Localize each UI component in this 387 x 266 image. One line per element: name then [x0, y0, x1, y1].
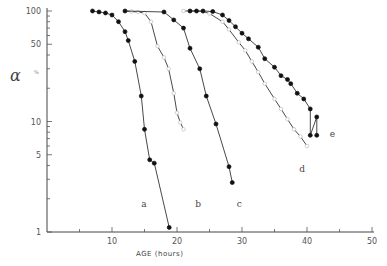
data-point — [247, 37, 251, 41]
y-tick-label: 50 — [31, 40, 41, 49]
data-point — [308, 133, 312, 137]
data-point — [182, 9, 186, 13]
data-point — [308, 107, 312, 111]
curve-label-c: c — [237, 199, 242, 209]
y-tick-label: 1 — [36, 228, 41, 237]
data-point — [201, 9, 205, 13]
curve-b — [125, 11, 184, 129]
data-point — [91, 9, 95, 13]
series-d: d — [182, 9, 309, 174]
data-point — [263, 57, 267, 61]
data-point — [139, 94, 143, 98]
data-point — [256, 45, 260, 49]
data-point — [273, 97, 277, 101]
y-tick-label: 10 — [31, 118, 41, 127]
data-point — [178, 121, 182, 125]
curve-label-d: d — [299, 164, 305, 174]
data-point — [302, 97, 306, 101]
data-point — [237, 41, 241, 45]
data-point — [136, 10, 140, 14]
x-tick-label: 50 — [367, 237, 377, 246]
data-point — [167, 67, 171, 71]
data-point — [230, 181, 234, 185]
data-point — [117, 20, 121, 24]
y-tick-label: 100 — [26, 7, 41, 16]
data-point — [104, 11, 108, 15]
data-point — [305, 144, 309, 148]
data-point — [221, 13, 225, 17]
data-point — [250, 60, 254, 64]
series-e: e — [188, 9, 335, 139]
curve-e — [190, 11, 317, 135]
data-point — [162, 10, 166, 14]
data-point — [148, 158, 152, 162]
series-a: a — [91, 9, 172, 229]
axes: 1510501001020304050 — [26, 7, 377, 246]
data-point — [263, 82, 267, 86]
data-point — [221, 20, 225, 24]
data-point — [273, 65, 277, 69]
data-point — [295, 91, 299, 95]
data-point — [204, 94, 208, 98]
data-point — [97, 10, 101, 14]
x-tick-label: 20 — [172, 237, 182, 246]
data-point — [279, 74, 283, 78]
data-point — [195, 9, 199, 13]
data-point — [133, 59, 137, 63]
data-point — [286, 117, 290, 121]
y-tick-label: 5 — [36, 151, 41, 160]
series-layer: abcde — [91, 9, 336, 229]
data-point — [123, 30, 127, 34]
data-point — [240, 31, 244, 35]
data-point — [110, 13, 114, 17]
curve-label-b: b — [195, 199, 201, 209]
data-point — [126, 39, 130, 43]
y-axis-title: α % — [10, 66, 39, 85]
data-point — [211, 9, 215, 13]
data-point — [175, 111, 179, 115]
data-point — [256, 70, 260, 74]
data-point — [152, 161, 156, 165]
x-tick-label: 40 — [302, 237, 312, 246]
series-c: c — [123, 9, 242, 209]
data-point — [188, 9, 192, 13]
data-point — [143, 127, 147, 131]
data-point — [289, 82, 293, 86]
data-point — [227, 19, 231, 23]
curve-a — [93, 11, 170, 227]
data-point — [315, 115, 319, 119]
percent-unit: % — [34, 69, 39, 75]
data-point — [198, 67, 202, 71]
data-point — [182, 26, 186, 30]
x-tick-label: 10 — [107, 237, 117, 246]
data-point — [172, 18, 176, 22]
data-point — [123, 9, 127, 13]
data-point — [286, 77, 290, 81]
data-point — [188, 46, 192, 50]
data-point — [299, 135, 303, 139]
data-point — [182, 127, 186, 131]
data-point — [149, 20, 153, 24]
data-point — [156, 44, 160, 48]
data-point — [227, 165, 231, 169]
x-tick-label: 30 — [237, 237, 247, 246]
curve-label-a: a — [141, 199, 147, 209]
series-b: b — [123, 9, 201, 208]
data-point — [243, 49, 247, 53]
data-point — [214, 122, 218, 126]
alpha-symbol: α — [10, 66, 21, 85]
data-point — [227, 28, 231, 32]
data-point — [279, 107, 283, 111]
data-point — [315, 133, 319, 137]
data-point — [234, 25, 238, 29]
data-point — [167, 225, 171, 229]
x-axis-title: AGE (hours) — [136, 250, 183, 258]
curve-label-e: e — [330, 129, 335, 139]
data-point — [172, 91, 176, 95]
chart: 1510501001020304050 abcde AGE (hours) α … — [0, 0, 387, 266]
data-point — [292, 127, 296, 131]
data-point — [162, 56, 166, 60]
